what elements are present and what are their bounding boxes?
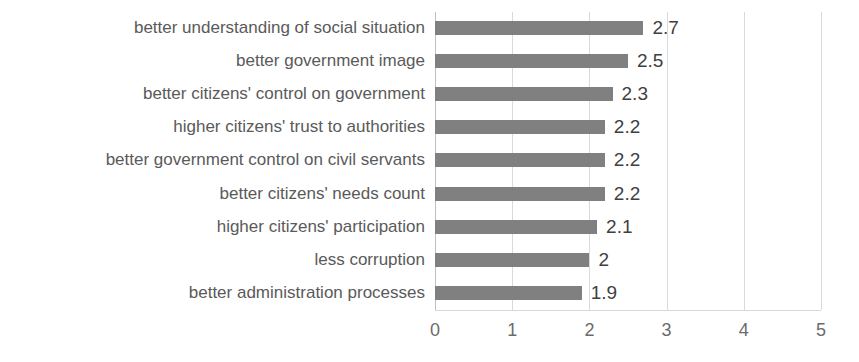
bar-chart: better understanding of social situation…: [0, 0, 859, 362]
x-tick-label: 4: [724, 318, 764, 342]
bar[interactable]: [435, 220, 597, 234]
x-tick-label: 5: [801, 318, 841, 342]
category-label: higher citizens' participation: [0, 216, 425, 238]
bar-row[interactable]: 2.7: [435, 12, 821, 45]
x-tick-label: 0: [415, 318, 455, 342]
category-label: better citizens' control on government: [0, 83, 425, 105]
bar-value-label: 2.7: [652, 15, 678, 41]
category-label: better citizens' needs count: [0, 183, 425, 205]
category-label: better understanding of social situation: [0, 17, 425, 39]
bar-value-label: 2.3: [622, 81, 648, 107]
bar-row[interactable]: 2.2: [435, 144, 821, 177]
bar[interactable]: [435, 187, 605, 201]
category-label: better government image: [0, 50, 425, 72]
x-axis-line: [435, 310, 821, 311]
bar-value-label: 2.2: [614, 181, 640, 207]
bar-row[interactable]: 2.2: [435, 178, 821, 211]
bar-value-label: 2.1: [606, 214, 632, 240]
category-label: better administration processes: [0, 282, 425, 304]
category-axis: better understanding of social situation…: [0, 12, 425, 310]
bar-row[interactable]: 2: [435, 244, 821, 277]
bar-row[interactable]: 2.1: [435, 211, 821, 244]
bar-row[interactable]: 2.2: [435, 111, 821, 144]
bar[interactable]: [435, 253, 589, 267]
x-tick-label: 1: [492, 318, 532, 342]
x-tick-label: 3: [647, 318, 687, 342]
gridline-5: [821, 12, 822, 310]
bar[interactable]: [435, 120, 605, 134]
bar[interactable]: [435, 153, 605, 167]
bar-row[interactable]: 2.3: [435, 78, 821, 111]
x-tick-label: 2: [569, 318, 609, 342]
bar[interactable]: [435, 87, 613, 101]
bar-value-label: 2.2: [614, 147, 640, 173]
bar-value-label: 2: [598, 247, 609, 273]
bar-value-label: 2.2: [614, 114, 640, 140]
bar-value-label: 1.9: [591, 280, 617, 306]
bar-value-label: 2.5: [637, 48, 663, 74]
category-label: higher citizens' trust to authorities: [0, 116, 425, 138]
bar[interactable]: [435, 54, 628, 68]
bar-row[interactable]: 1.9: [435, 277, 821, 310]
category-label: less corruption: [0, 249, 425, 271]
bar[interactable]: [435, 286, 582, 300]
bar-row[interactable]: 2.5: [435, 45, 821, 78]
plot-area: 2.72.52.32.22.22.22.121.9: [435, 12, 821, 310]
category-label: better government control on civil serva…: [0, 149, 425, 171]
bar[interactable]: [435, 21, 643, 35]
